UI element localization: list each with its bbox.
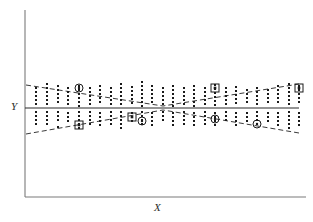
data-point [110,99,112,101]
plot-canvas [0,0,313,222]
square-dot-marker-center [214,87,217,90]
data-point [193,85,195,87]
data-point [235,124,237,126]
data-point [162,103,164,105]
data-point [35,95,37,97]
data-point [235,90,237,92]
data-point [214,96,216,98]
data-point [193,120,195,122]
data-point [46,115,48,117]
data-point [288,119,290,121]
data-point [120,103,122,105]
data-point [120,99,122,101]
data-point [151,97,153,99]
data-point [256,103,258,105]
data-point [298,124,300,126]
data-point [110,111,112,113]
data-point [267,116,269,118]
data-point [193,124,195,126]
data-point [120,83,122,85]
data-point [57,111,59,113]
data-point [151,124,153,126]
data-point [67,91,69,93]
data-point [110,91,112,93]
data-point [214,112,216,114]
data-point [120,87,122,89]
data-point [141,105,143,107]
data-point [141,85,143,87]
data-point [246,120,248,122]
data-point [235,116,237,118]
data-point [214,124,216,126]
data-point [99,85,101,87]
data-column [67,87,69,122]
data-point [214,116,216,118]
data-point [67,112,69,114]
data-point [78,111,80,113]
data-point [46,87,48,89]
data-point [246,97,248,99]
data-point [120,115,122,117]
data-point [141,101,143,103]
data-point [131,98,133,100]
data-point [277,89,279,91]
data-point [131,86,133,88]
data-point [120,127,122,129]
data-column [99,85,101,126]
data-point [110,115,112,117]
data-point [225,99,227,101]
square-dot-marker-center [298,87,301,90]
data-point [277,97,279,99]
data-point [214,100,216,102]
data-point [162,99,164,101]
data-point [131,102,133,104]
data-point [57,97,59,99]
data-point [172,112,174,114]
data-point [298,97,300,99]
data-point [172,105,174,107]
data-point [235,94,237,96]
data-point [183,111,185,113]
data-point [172,116,174,118]
data-point [204,119,206,121]
data-point [256,95,258,97]
data-point [183,91,185,93]
data-point [172,101,174,103]
data-point [57,101,59,103]
data-point [89,95,91,97]
data-point [277,85,279,87]
data-point [267,97,269,99]
data-point [298,112,300,114]
data-point [225,111,227,113]
data-point [35,111,37,113]
data-point [204,87,206,89]
data-point [141,81,143,83]
data-point [46,119,48,121]
data-point [78,85,80,87]
data-point [151,112,153,114]
circle-dot-marker-center [141,120,143,122]
data-point [99,116,101,118]
data-point [131,90,133,92]
data-point [172,85,174,87]
data-point [141,111,143,113]
data-point [46,95,48,97]
data-point [46,99,48,101]
circle-dot-marker-center [214,118,216,120]
data-point [46,103,48,105]
data-column [267,89,269,122]
data-column [246,89,248,122]
data-point [267,89,269,91]
data-point [151,85,153,87]
data-point [141,89,143,91]
data-point [120,91,122,93]
data-point [225,95,227,97]
data-point [151,89,153,91]
data-point [256,111,258,113]
data-point [99,112,101,114]
data-point [277,93,279,95]
data-point [99,101,101,103]
data-point [298,89,300,91]
x-axis-label: X [154,201,161,213]
data-column [57,85,59,128]
